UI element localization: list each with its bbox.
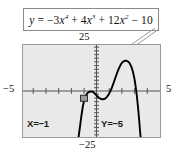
trace-x-readout: X=−1 [27,118,49,129]
trace-cursor-marker [81,95,88,101]
x-axis-min-label: −5 [3,83,14,94]
y-axis-max-label: 25 [79,31,90,42]
equation-term3-coef: + 12 [95,14,119,26]
equation-text: y = −3x4 + 4x3 + 12x2 − 10 [29,14,153,26]
equation-callout-box: y = −3x4 + 4x3 + 12x2 − 10 [23,8,159,31]
equation-equals: = [34,14,47,26]
graphing-calculator-figure: y = −3x4 + 4x3 + 12x2 − 10 25 −25 −5 5 [0,0,184,157]
x-axis-max-label: 5 [166,83,171,94]
trace-y-readout: Y=−5 [101,118,123,129]
y-axis-min-label: −25 [79,139,95,150]
equation-term2-coef: + 4 [68,14,86,26]
equation-term1-coef: −3 [47,14,59,26]
calculator-screen: X=−1 Y=−5 [22,44,161,138]
equation-term4-constant: − 10 [129,14,153,26]
